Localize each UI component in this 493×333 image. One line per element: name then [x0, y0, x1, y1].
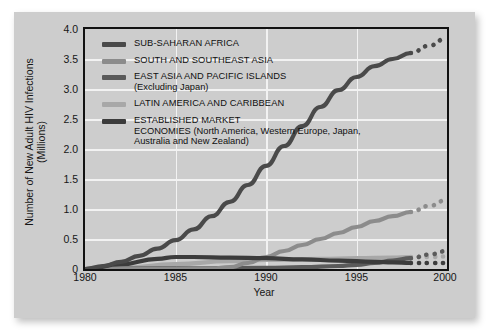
x-axis-ticks: 1980 1985 1990 1995 2000	[83, 271, 449, 287]
y-tick-3-0: 3.0	[44, 84, 78, 94]
legend-swatch-established-market-economies	[102, 119, 126, 124]
legend-swatch-latin-america-and-caribbean	[102, 102, 126, 107]
legend-swatch-sub-saharan-africa	[102, 42, 126, 47]
legend-label-east-asia-and-pacific-islands: EAST ASIA AND PACIFIC ISLANDS	[134, 71, 286, 82]
chart-figure: Number of New Adult HIV Infections (Mill…	[0, 0, 493, 333]
legend-item-sub-saharan-africa: SUB-SAHARAN AFRICA	[102, 38, 362, 49]
x-tick-1985: 1985	[154, 271, 198, 283]
legend-label-south-and-southeast-asia: SOUTH AND SOUTHEAST ASIA	[134, 55, 273, 66]
x-tick-1995: 1995	[335, 271, 379, 283]
legend-label-latin-america-and-caribbean: LATIN AMERICA AND CARIBBEAN	[134, 98, 284, 109]
y-tick-4-0: 4.0	[44, 24, 78, 34]
legend-label-established-market-economies: ESTABLISHED MARKET	[134, 115, 362, 126]
y-tick-2-0: 2.0	[44, 144, 78, 154]
y-tick-0-5: 0.5	[44, 234, 78, 244]
y-tick-1-5: 1.5	[44, 174, 78, 184]
x-tick-2000: 2000	[423, 271, 467, 283]
y-tick-1-0: 1.0	[44, 204, 78, 214]
legend-swatch-south-and-southeast-asia	[102, 59, 126, 64]
y-tick-2-5: 2.5	[44, 114, 78, 124]
legend-item-south-and-southeast-asia: SOUTH AND SOUTHEAST ASIA	[102, 55, 362, 66]
chart-card-surface: Number of New Adult HIV Infections (Mill…	[14, 12, 475, 318]
legend-item-east-asia-and-pacific-islands: EAST ASIA AND PACIFIC ISLANDS (Excluding…	[102, 71, 362, 92]
chart-legend: SUB-SAHARAN AFRICA SOUTH AND SOUTHEAST A…	[102, 38, 362, 153]
chart-card: Number of New Adult HIV Infections (Mill…	[14, 12, 475, 318]
legend-label-sub-saharan-africa: SUB-SAHARAN AFRICA	[134, 38, 239, 49]
x-tick-1980: 1980	[63, 271, 107, 283]
legend-swatch-east-asia-and-pacific-islands	[102, 75, 126, 80]
legend-sublabel-east-asia-and-pacific-islands: (Excluding Japan)	[134, 82, 286, 93]
x-axis-title: Year	[83, 286, 445, 298]
legend-item-established-market-economies: ESTABLISHED MARKET ECONOMIES (North Amer…	[102, 115, 362, 147]
y-tick-3-5: 3.5	[44, 54, 78, 64]
y-axis-title-line1: Number of New Adult HIV Infections	[23, 58, 35, 226]
legend-sublabel-established-market-economies: ECONOMIES (North America, Western Europe…	[134, 126, 362, 147]
y-axis-ticks: 4.0 3.5 3.0 2.5 2.0 1.5 1.0 0.5 0	[38, 24, 78, 270]
legend-item-latin-america-and-caribbean: LATIN AMERICA AND CARIBBEAN	[102, 98, 362, 109]
x-tick-1990: 1990	[244, 271, 288, 283]
